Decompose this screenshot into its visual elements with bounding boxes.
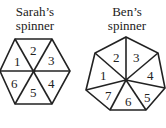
hept-section-4: 4 [147,68,154,83]
hex-section-1: 1 [14,54,21,69]
hept-section-7: 7 [105,88,112,103]
spinners-diagram: 1 2 3 4 5 6 1 2 3 4 5 6 7 [0,0,166,128]
hex-section-3: 3 [48,53,55,68]
hept-section-1: 1 [100,68,107,83]
hexagon-center-pin [33,70,36,73]
hex-section-5: 5 [30,85,37,100]
hex-section-2: 2 [30,43,37,58]
hept-section-2: 2 [113,50,120,65]
hept-section-3: 3 [133,50,140,65]
hex-section-4: 4 [48,76,55,91]
hex-section-6: 6 [11,76,18,91]
heptagon-center-pin [125,79,128,82]
hept-section-5: 5 [144,90,151,105]
hept-section-6: 6 [125,94,132,109]
